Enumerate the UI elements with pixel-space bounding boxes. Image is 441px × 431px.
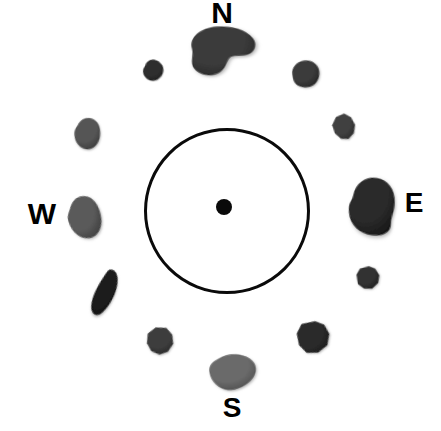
stone-northeast bbox=[329, 111, 358, 142]
cardinal-label-south: S bbox=[223, 394, 242, 422]
stone-north-northeast bbox=[288, 57, 323, 90]
stone-north-northwest bbox=[140, 57, 167, 84]
stone-northwest bbox=[71, 115, 103, 152]
cardinal-label-west: W bbox=[28, 199, 56, 229]
stone-compass-figure: NESW bbox=[0, 0, 441, 431]
cardinal-label-east: E bbox=[405, 189, 424, 217]
stone-north bbox=[185, 23, 258, 80]
stone-southwest bbox=[85, 265, 128, 321]
stone-west bbox=[61, 190, 107, 243]
stone-east bbox=[343, 174, 398, 239]
stone-south-southeast bbox=[292, 316, 335, 359]
cardinal-label-north: N bbox=[211, 0, 233, 28]
stone-south-southwest bbox=[143, 324, 177, 358]
stone-east-southeast bbox=[354, 264, 381, 291]
stone-south bbox=[206, 351, 258, 393]
center-dot bbox=[216, 199, 232, 215]
